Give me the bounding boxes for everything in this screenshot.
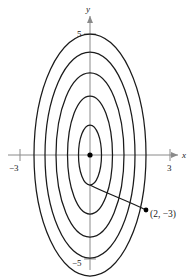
point-annotation-label: (2, −3) [150,209,176,220]
y-axis-label: y [85,4,90,14]
axis-group [8,16,178,270]
x-tick-label-positive-three: 3 [167,163,172,173]
y-tick-label-positive-five: 5 [77,29,82,39]
endpoint-marker [144,208,149,213]
origin-point-marker [87,152,92,157]
x-axis-arrowhead [171,152,178,158]
x-tick-label-negative-three: −3 [9,163,19,173]
plot-canvas: −3 3 5 −5 x y (2, −3) [0,0,192,277]
x-axis-label: x [181,150,186,160]
trajectory-curve [90,185,146,210]
y-tick-label-negative-five: −5 [72,258,82,268]
contour-plot-figure: −3 3 5 −5 x y (2, −3) [0,0,192,277]
y-axis-arrowhead [87,16,93,23]
